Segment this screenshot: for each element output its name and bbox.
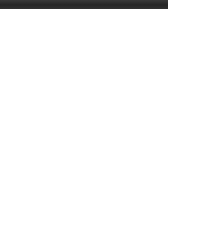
chord-diagram <box>0 0 205 237</box>
